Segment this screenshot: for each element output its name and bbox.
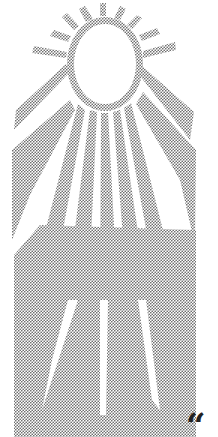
ground-block [14, 225, 196, 437]
sun-rays-illustration [0, 0, 218, 437]
quote-mark: “ [186, 408, 206, 437]
